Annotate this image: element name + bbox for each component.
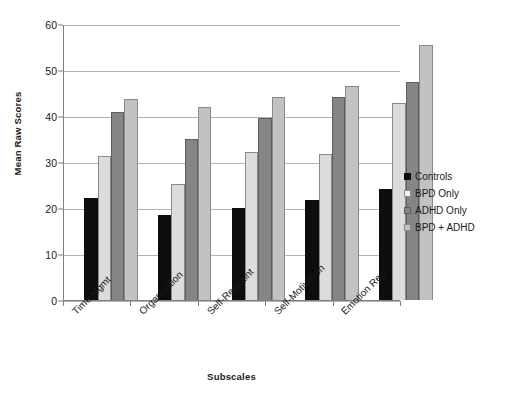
bar	[124, 99, 137, 300]
y-axis-title: Mean Raw Scores	[12, 74, 23, 194]
bar-group	[359, 25, 433, 300]
bar	[111, 112, 124, 300]
bar-groups	[64, 25, 400, 300]
y-axis-tick-label: 60	[45, 19, 57, 31]
legend-item[interactable]: BPD Only	[404, 185, 512, 202]
x-axis-tickmark	[265, 301, 266, 306]
legend-label: BPD + ADHD	[415, 222, 475, 233]
legend-swatch-icon	[404, 224, 411, 231]
bar-chart-figure: Mean Raw Scores 0102030405060 Time MgmtO…	[0, 0, 516, 404]
legend-item[interactable]: BPD + ADHD	[404, 219, 512, 236]
legend-swatch-icon	[404, 207, 411, 214]
bar	[198, 107, 211, 300]
legend-swatch-icon	[404, 190, 411, 197]
bar	[379, 189, 392, 300]
x-axis-tickmark	[63, 301, 64, 306]
y-axis-tick-label: 10	[45, 249, 57, 261]
legend-swatch-icon	[404, 173, 411, 180]
legend-label: Controls	[415, 171, 452, 182]
bar	[319, 154, 332, 300]
legend-label: BPD Only	[415, 188, 459, 199]
y-axis-tick-label: 50	[45, 65, 57, 77]
bar-group	[64, 25, 138, 300]
y-axis-tick-label: 0	[51, 295, 57, 307]
bar-group	[138, 25, 212, 300]
bar	[345, 86, 358, 300]
legend-label: ADHD Only	[415, 205, 467, 216]
x-axis-tickmark	[333, 301, 334, 306]
plot-area: 0102030405060	[63, 25, 400, 301]
bar	[185, 139, 198, 300]
legend-item[interactable]: ADHD Only	[404, 202, 512, 219]
legend-item[interactable]: Controls	[404, 168, 512, 185]
bar	[272, 97, 285, 300]
y-axis-tick-label: 20	[45, 203, 57, 215]
y-axis-tick-label: 40	[45, 111, 57, 123]
y-axis-tick-label: 30	[45, 157, 57, 169]
bar	[258, 118, 271, 300]
bar-group	[211, 25, 285, 300]
x-axis-tickmark	[130, 301, 131, 306]
x-axis-title: Subscales	[63, 371, 400, 382]
bar-group	[285, 25, 359, 300]
chart-legend: ControlsBPD OnlyADHD OnlyBPD + ADHD	[404, 168, 512, 236]
x-axis-tickmark	[198, 301, 199, 306]
bar	[332, 97, 345, 301]
x-axis-tickmark	[400, 301, 401, 306]
